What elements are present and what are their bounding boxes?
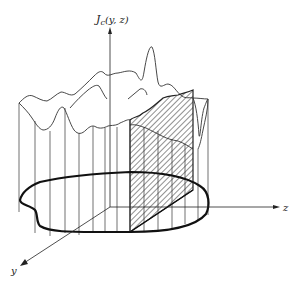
z-axis-label: z (282, 202, 289, 213)
surface-mid-ridge (70, 85, 107, 108)
jc-surface-diagram: Jc(y, z) z y (0, 0, 299, 288)
jc-axis (108, 27, 112, 207)
jc-axis-label: Jc(y, z) (94, 13, 129, 27)
surface-front-profile (19, 103, 130, 133)
surface-mid-ridge-2 (128, 89, 147, 99)
y-axis-label: y (10, 265, 17, 276)
